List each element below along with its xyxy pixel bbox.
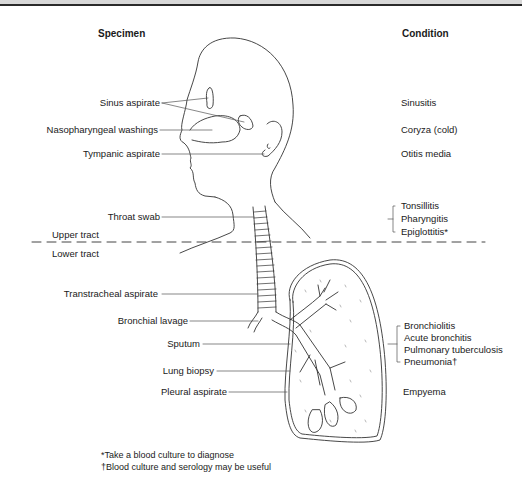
trachea-rings	[254, 211, 276, 308]
neck-back	[275, 202, 310, 238]
trachea-left	[253, 207, 258, 312]
specimen-pleural-aspirate: Pleural aspirate	[161, 386, 227, 398]
specimen-nasopharyngeal-washings: Nasopharyngeal washings	[47, 124, 158, 136]
specimen-tympanic-aspirate: Tympanic aspirate	[83, 148, 160, 160]
footnote-asterisk: *Take a blood culture to diagnose	[101, 449, 234, 461]
nasal-cavity	[190, 116, 240, 143]
condition-header: Condition	[402, 28, 449, 39]
lung-outline-inner	[289, 264, 382, 438]
upper-tract-label: Upper tract	[52, 229, 99, 241]
condition-sinusitis: Sinusitis	[401, 97, 436, 109]
throat-group-bracket	[388, 206, 395, 232]
condition-otitis-media: Otitis media	[401, 148, 451, 160]
specimen-sputum: Sputum	[167, 338, 200, 350]
sphenoid-sinus	[238, 115, 253, 129]
bronchiole-tips	[300, 280, 345, 385]
condition-tonsillitis: Tonsillitis	[401, 200, 439, 212]
condition-acute-bronchitis: Acute bronchitis	[404, 332, 472, 344]
specimen-lung-biopsy: Lung biopsy	[163, 365, 214, 377]
footnote-dagger: †Blood culture and serology may be usefu…	[101, 461, 271, 473]
specimen-bronchial-lavage: Bronchial lavage	[118, 315, 188, 327]
condition-pneumonia: Pneumonia†	[404, 356, 457, 368]
neck-front	[180, 197, 234, 253]
main-bronchus	[272, 312, 335, 395]
condition-pulmonary-tuberculosis: Pulmonary tuberculosis	[404, 344, 503, 356]
specimen-header: Specimen	[98, 28, 145, 39]
lung-outline-outer	[285, 260, 386, 442]
alveoli-cluster-3	[340, 397, 357, 413]
specimen-transtracheal-aspirate: Transtracheal aspirate	[64, 288, 158, 300]
specimen-sinus-aspirate: Sinus aspirate	[100, 97, 160, 109]
alveoli-cluster-1	[308, 410, 322, 432]
lung-group-bracket	[388, 326, 400, 362]
ear	[262, 121, 282, 156]
alveoli-cluster-2	[324, 402, 338, 426]
lower-tract-label: Lower tract	[52, 248, 99, 260]
condition-bronchiolitis: Bronchiolitis	[404, 320, 455, 332]
condition-coryza: Coryza (cold)	[401, 124, 458, 136]
lung-texture	[295, 280, 371, 432]
condition-pharyngitis: Pharyngitis	[401, 213, 448, 225]
specimen-throat-swab: Throat swab	[108, 211, 160, 223]
condition-epiglottitis: Epiglottitis*	[401, 226, 448, 238]
condition-empyema: Empyema	[403, 386, 446, 398]
left-bronchus-stub	[248, 312, 262, 332]
